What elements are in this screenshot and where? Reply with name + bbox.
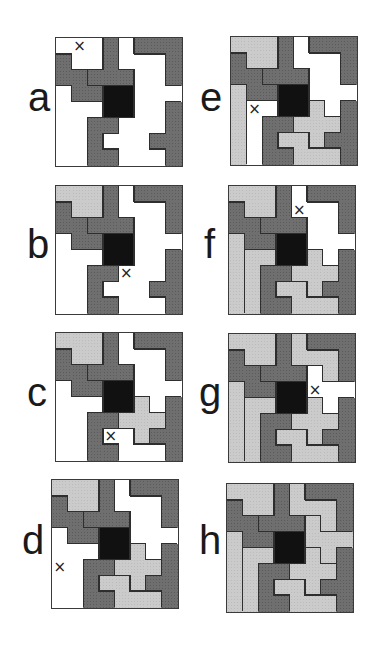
piece-V-cell	[161, 512, 177, 528]
piece-U-cell	[87, 428, 103, 444]
piece-V-cell	[336, 500, 352, 516]
empty-cell	[56, 444, 72, 460]
piece-boundary	[118, 297, 119, 313]
piece-T-cell	[99, 512, 115, 528]
piece-U-cell	[103, 265, 119, 281]
piece-boundary	[133, 333, 134, 349]
board-panel-f: ×	[228, 185, 356, 315]
center-block-cell	[292, 250, 308, 266]
piece-boundary	[161, 527, 177, 528]
piece-P-cell	[262, 53, 278, 69]
piece-boundary	[291, 297, 292, 313]
piece-boundary	[150, 296, 166, 297]
piece-boundary	[260, 265, 276, 266]
piece-Z-cell	[323, 366, 339, 382]
empty-cell	[323, 382, 339, 398]
piece-N-cell	[115, 591, 131, 607]
piece-T-cell	[99, 480, 115, 496]
panel-label-b: b	[27, 224, 49, 264]
piece-T-cell	[87, 365, 103, 381]
piece-V-cell	[161, 496, 177, 512]
piece-boundary	[130, 590, 146, 591]
piece-X-cell	[294, 116, 310, 132]
piece-N-cell	[294, 148, 310, 164]
piece-boundary	[340, 69, 341, 85]
piece-I-cell	[227, 532, 243, 548]
piece-boundary	[72, 217, 88, 218]
piece-boundary	[133, 86, 134, 102]
empty-cell	[150, 444, 166, 460]
piece-boundary	[87, 233, 103, 234]
piece-boundary	[276, 413, 292, 414]
piece-boundary	[260, 429, 261, 445]
piece-Y-cell	[165, 133, 181, 149]
piece-boundary	[87, 265, 103, 266]
center-block-cell	[119, 102, 135, 118]
piece-boundary	[338, 218, 339, 234]
piece-Y-cell	[150, 281, 166, 297]
piece-boundary	[165, 297, 166, 313]
piece-L-cell	[243, 563, 259, 579]
piece-I-cell	[229, 234, 245, 250]
piece-Y-cell	[338, 398, 354, 414]
piece-boundary	[244, 265, 245, 281]
piece-P-cell	[229, 334, 245, 350]
piece-boundary	[149, 428, 150, 444]
piece-boundary	[320, 516, 321, 532]
piece-I-cell	[227, 595, 243, 611]
piece-boundary	[321, 594, 337, 595]
piece-X-cell	[305, 548, 321, 564]
center-block-cell	[99, 528, 115, 544]
piece-boundary	[338, 398, 339, 414]
piece-boundary	[99, 575, 115, 576]
empty-cell	[134, 102, 150, 118]
piece-boundary	[56, 233, 72, 234]
piece-boundary	[276, 265, 292, 266]
piece-boundary	[340, 53, 341, 69]
piece-Y-cell	[321, 579, 337, 595]
piece-U-cell	[87, 265, 103, 281]
piece-boundary	[277, 53, 278, 69]
empty-cell	[52, 591, 68, 607]
piece-boundary	[323, 429, 339, 430]
piece-X-cell	[321, 563, 337, 579]
piece-boundary	[119, 233, 135, 234]
piece-boundary	[338, 250, 339, 266]
piece-U-cell	[103, 444, 119, 460]
piece-L-cell	[245, 398, 261, 414]
piece-boundary	[294, 68, 310, 69]
piece-U-cell	[262, 116, 278, 132]
piece-W-cell	[231, 69, 247, 85]
piece-boundary	[102, 250, 103, 266]
empty-cell	[87, 54, 103, 70]
piece-I-cell	[229, 250, 245, 266]
empty-cell	[150, 117, 166, 133]
empty-cell	[119, 349, 135, 365]
piece-X-cell	[325, 116, 341, 132]
piece-boundary	[133, 397, 134, 413]
piece-X-cell	[323, 265, 339, 281]
empty-cell	[325, 85, 341, 101]
empty-cell	[309, 53, 325, 69]
piece-boundary	[102, 381, 103, 397]
piece-W-cell	[229, 218, 245, 234]
piece-boundary	[72, 101, 88, 102]
piece-W-cell	[72, 86, 88, 102]
piece-boundary	[309, 100, 325, 101]
piece-U-cell	[99, 559, 115, 575]
piece-T-cell	[83, 512, 99, 528]
piece-boundary	[307, 296, 323, 297]
empty-cell	[150, 250, 166, 266]
piece-boundary	[99, 559, 115, 560]
piece-U-cell	[258, 563, 274, 579]
piece-L-cell	[258, 548, 274, 564]
empty-cell	[134, 349, 150, 365]
piece-X-cell	[307, 281, 323, 297]
piece-boundary	[87, 117, 103, 118]
piece-N-cell	[292, 429, 308, 445]
empty-cell	[294, 37, 310, 53]
piece-Y-cell	[338, 250, 354, 266]
piece-P-cell	[231, 37, 247, 53]
piece-boundary	[307, 444, 323, 445]
piece-W-cell	[243, 516, 259, 532]
